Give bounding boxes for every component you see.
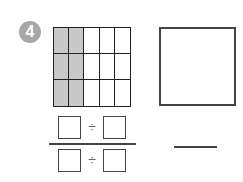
fraction-bar [49,143,136,145]
denominator-right-input-box[interactable] [103,149,126,172]
numerator-left-input-box[interactable] [58,116,81,139]
denominator-divide-sign: ÷ [84,152,100,168]
numerator-divide-sign: ÷ [84,119,100,135]
answer-blank-line[interactable] [174,146,217,148]
grid-cell-shaded [69,80,84,106]
grid-cell-shaded [54,28,69,54]
grid-cell-shaded [54,80,69,106]
grid-cell [84,54,99,80]
denominator-left-input-box[interactable] [58,149,81,172]
numerator-right-input-box[interactable] [103,116,126,139]
grid-cell [100,54,115,80]
grid-cell [100,28,115,54]
grid-cell [100,80,115,106]
grid-cell [115,28,130,54]
grid-cell [84,28,99,54]
grid-cell-shaded [69,54,84,80]
grid-cell-shaded [54,54,69,80]
fraction-grid [53,27,131,107]
drawing-answer-square[interactable] [159,27,236,106]
grid-cell [115,54,130,80]
grid-cell [84,80,99,106]
grid-cell [115,80,130,106]
grid-cell-shaded [69,28,84,54]
problem-number-badge: 4 [19,21,41,43]
